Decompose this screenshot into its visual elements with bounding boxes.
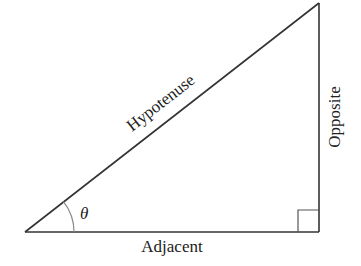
right-angle-marker [298, 210, 319, 232]
triangle-diagram: θ Hypotenuse Opposite Adjacent [0, 0, 361, 266]
opposite-label: Opposite [325, 86, 344, 147]
hypotenuse-side [25, 3, 319, 232]
angle-arc [64, 202, 75, 232]
adjacent-label: Adjacent [141, 237, 203, 256]
angle-label: θ [80, 204, 88, 223]
